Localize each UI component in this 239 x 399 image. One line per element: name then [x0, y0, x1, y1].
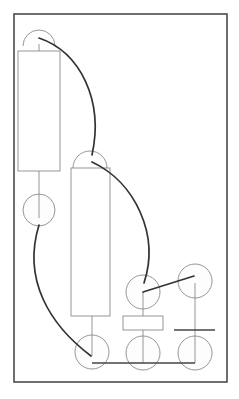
circle-nodes [23, 194, 212, 370]
tall-block-left [18, 51, 60, 171]
tall-block-middle [71, 168, 110, 316]
middle-terminal [73, 151, 107, 168]
schematic-diagram [0, 0, 239, 399]
small-block [123, 316, 163, 330]
thin-connector-lines [39, 44, 195, 363]
wire-paths [34, 38, 215, 363]
